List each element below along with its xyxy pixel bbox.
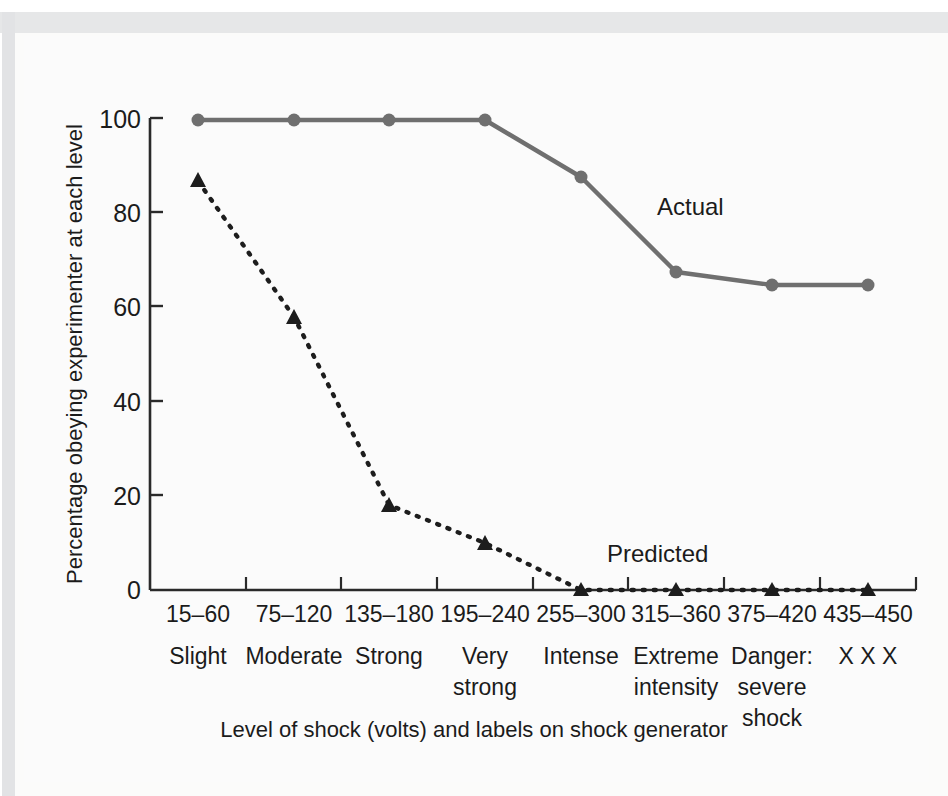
- y-axis-title: Percentage obeying experimenter at each …: [62, 124, 87, 584]
- y-axis-tick-labels: 100 80 60 40 20 0: [99, 105, 141, 604]
- y-tick-label-60: 60: [113, 293, 141, 321]
- predicted-line: [198, 181, 868, 590]
- actual-marker-5: [670, 266, 683, 279]
- x-description-1: Moderate: [245, 643, 342, 669]
- y-axis-ticks: [150, 118, 163, 495]
- x-description-0: Slight: [169, 643, 227, 669]
- x-description-6: Danger:severeshock: [731, 643, 813, 731]
- y-tick-label-100: 100: [99, 105, 141, 133]
- actual-marker-7: [862, 279, 875, 292]
- x-description-5: Extremeintensity: [633, 643, 719, 700]
- actual-marker-2: [383, 114, 396, 127]
- x-category-1: 75–120: [256, 601, 333, 627]
- chart-axes: [150, 118, 916, 590]
- y-tick-label-0: 0: [127, 576, 141, 604]
- y-tick-label-80: 80: [113, 199, 141, 227]
- x-category-6: 375–420: [727, 601, 817, 627]
- x-description-2: Strong: [355, 643, 423, 669]
- y-tick-label-20: 20: [113, 482, 141, 510]
- series-label-predicted: Predicted: [607, 540, 708, 567]
- x-category-0: 15–60: [166, 601, 230, 627]
- actual-line: [198, 120, 868, 285]
- actual-marker-0: [192, 114, 205, 127]
- predicted-marker-0: [190, 172, 206, 187]
- x-category-5: 315–360: [631, 601, 721, 627]
- actual-marker-3: [479, 114, 492, 127]
- series-predicted: [190, 172, 876, 596]
- x-category-7: 435–450: [823, 601, 913, 627]
- predicted-marker-1: [286, 309, 302, 324]
- x-description-4: Intense: [543, 643, 618, 669]
- x-axis-category-labels: 15–60 75–120 135–180 195–240 255–300 315…: [166, 601, 913, 627]
- actual-marker-4: [575, 171, 588, 184]
- y-tick-label-40: 40: [113, 388, 141, 416]
- figure-page: 100 80 60 40 20 0: [0, 0, 948, 796]
- actual-marker-1: [288, 114, 301, 127]
- x-axis-title: Level of shock (volts) and labels on sho…: [220, 717, 728, 742]
- x-description-3: Verystrong: [453, 643, 517, 700]
- x-category-3: 195–240: [440, 601, 530, 627]
- x-category-2: 135–180: [344, 601, 434, 627]
- predicted-marker-2: [381, 497, 397, 512]
- actual-marker-6: [766, 279, 779, 292]
- series-actual: [192, 114, 875, 292]
- obedience-line-chart: 100 80 60 40 20 0: [0, 0, 948, 796]
- series-label-actual: Actual: [657, 193, 724, 220]
- x-description-7: X X X: [839, 643, 898, 669]
- x-category-4: 255–300: [536, 601, 626, 627]
